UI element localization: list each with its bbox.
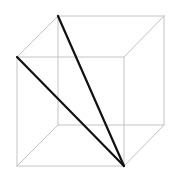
- cube-edge: [124, 125, 164, 166]
- cube-edge: [17, 125, 58, 166]
- diagonal-line: [58, 16, 124, 166]
- cube-edge: [124, 16, 164, 57]
- cube-edge: [17, 16, 58, 57]
- cube-diagonals: [17, 16, 124, 166]
- cube-diagram: [0, 0, 169, 176]
- cube-wireframe-figure: [0, 0, 169, 176]
